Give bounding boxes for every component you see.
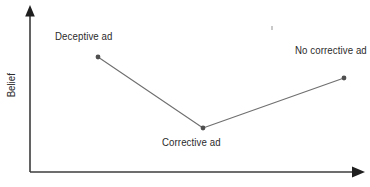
x-axis-arrow-icon [352,167,365,178]
data-point-deceptive-ad [96,55,101,60]
belief-line-chart-figure: Belief Deceptive ad Corrective ad No cor… [0,0,370,187]
point-label-deceptive-ad: Deceptive ad [55,31,113,42]
chart-plot-area [0,0,370,187]
y-axis-title: Belief [6,63,17,107]
point-label-corrective-ad: Corrective ad [162,137,221,148]
y-axis-arrow-icon [25,5,35,17]
scan-artifact-speck [271,26,273,30]
data-point-corrective-ad [201,126,206,131]
point-label-no-corrective-ad: No corrective ad [295,45,367,56]
belief-series-line [98,57,344,128]
data-point-no-corrective-ad [342,76,347,81]
